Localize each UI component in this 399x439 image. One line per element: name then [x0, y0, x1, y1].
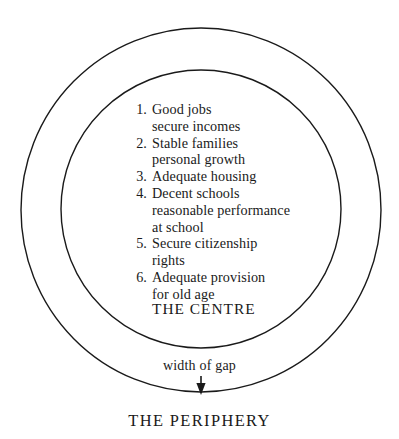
list-item-line1: Stable families: [152, 135, 238, 151]
list-item-line2: personal growth: [152, 151, 353, 168]
list-item: 2. Stable families personal growth: [133, 135, 353, 169]
periphery-label: THE PERIPHERY: [0, 411, 399, 430]
list-item-line3: at school: [152, 219, 353, 236]
list-item-line1: Decent schools: [152, 185, 240, 201]
width-of-gap-label: width of gap: [0, 358, 399, 374]
list-item-number: 4.: [133, 185, 147, 202]
list-item-line1: Adequate housing: [152, 168, 256, 184]
list-item-line2: secure incomes: [152, 118, 353, 135]
centre-label: THE CENTRE: [152, 300, 256, 317]
list-item: 4. Decent schools reasonable performance…: [133, 185, 353, 235]
list-item: 3. Adequate housing: [133, 168, 353, 185]
list-item-line2: rights: [152, 252, 353, 269]
list-item-line1: Adequate provision: [152, 269, 265, 285]
centre-attribute-list: 1. Good jobs secure incomes 2. Stable fa…: [133, 101, 353, 303]
list-item-number: 6.: [133, 269, 147, 286]
list-item-line1: Secure citizenship: [152, 235, 257, 251]
list-item-number: 3.: [133, 168, 147, 185]
list-item-number: 2.: [133, 135, 147, 152]
list-item-line1: Good jobs: [152, 101, 212, 117]
list-item: 1. Good jobs secure incomes: [133, 101, 353, 135]
list-item-line2: reasonable performance: [152, 202, 353, 219]
diagram-canvas: 1. Good jobs secure incomes 2. Stable fa…: [0, 0, 399, 439]
list-item-number: 1.: [133, 101, 147, 118]
list-item: 6. Adequate provision for old age: [133, 269, 353, 303]
list-item-number: 5.: [133, 235, 147, 252]
list-item: 5. Secure citizenship rights: [133, 235, 353, 269]
